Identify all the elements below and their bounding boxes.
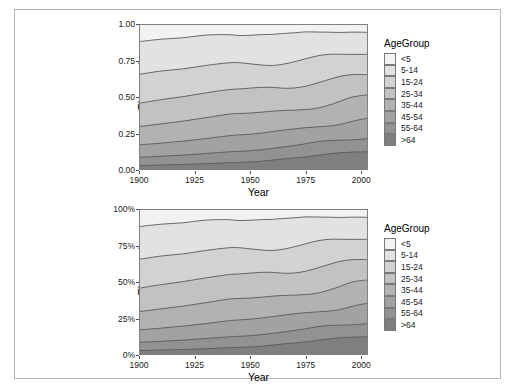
legend-swatch bbox=[384, 250, 396, 262]
y-axis-ticks-bottom: 0%25%50%75%100% bbox=[93, 195, 135, 380]
y-tick-label: 25% bbox=[118, 314, 135, 324]
y-tick-mark bbox=[136, 61, 139, 62]
x-tick-mark bbox=[250, 356, 251, 359]
x-tick-label: 1925 bbox=[185, 360, 204, 370]
legend-label: >64 bbox=[401, 135, 415, 145]
x-tick-label: 1900 bbox=[130, 360, 149, 370]
legend-item: 5-14 bbox=[384, 250, 430, 262]
y-tick-label: 0.00 bbox=[118, 165, 135, 175]
x-tick-label: 1975 bbox=[296, 175, 315, 185]
legend-swatch bbox=[384, 99, 396, 111]
legend-item: 15-24 bbox=[384, 261, 430, 273]
legend-item: 35-44 bbox=[384, 99, 430, 111]
legend-items-bottom: <55-1415-2425-3435-4445-5455-64>64 bbox=[384, 238, 430, 331]
x-tick-label: 1975 bbox=[296, 360, 315, 370]
legend-swatch bbox=[384, 88, 396, 100]
legend-items-top: <55-1415-2425-3435-4445-5455-64>64 bbox=[384, 53, 430, 146]
x-tick-label: 2000 bbox=[352, 175, 371, 185]
figure-frame: Thousands 0.000.250.500.751.00 AgeGroup … bbox=[14, 9, 501, 379]
legend-label: <5 bbox=[401, 54, 411, 64]
legend-swatch bbox=[384, 273, 396, 285]
chart-bottom-percent: Thousands 0%25%50%75%100% AgeGroup <55-1… bbox=[15, 195, 502, 380]
legend-item: 35-44 bbox=[384, 284, 430, 296]
y-tick-label: 0% bbox=[123, 350, 135, 360]
legend-item: 5-14 bbox=[384, 65, 430, 77]
y-axis-ticks-top: 0.000.250.500.751.00 bbox=[93, 10, 135, 195]
x-tick-mark bbox=[195, 171, 196, 174]
plot-panel-bottom bbox=[139, 209, 368, 355]
legend-swatch bbox=[384, 284, 396, 296]
legend-swatch bbox=[384, 308, 396, 320]
legend-label: 5-14 bbox=[401, 250, 418, 260]
legend-top: AgeGroup <55-1415-2425-3435-4445-5455-64… bbox=[384, 38, 430, 146]
legend-swatch bbox=[384, 296, 396, 308]
y-tick-mark bbox=[136, 319, 139, 320]
y-tick-label: 0.50 bbox=[118, 92, 135, 102]
legend-item: 25-34 bbox=[384, 273, 430, 285]
legend-item: 25-34 bbox=[384, 88, 430, 100]
chart-top-absolute: Thousands 0.000.250.500.751.00 AgeGroup … bbox=[15, 10, 502, 195]
legend-swatch bbox=[384, 261, 396, 273]
legend-item: 45-54 bbox=[384, 111, 430, 123]
plot-panel-top bbox=[139, 24, 368, 170]
x-tick-label: 1925 bbox=[185, 175, 204, 185]
x-tick-label: 1900 bbox=[130, 175, 149, 185]
legend-item: >64 bbox=[384, 319, 430, 331]
x-tick-mark bbox=[306, 356, 307, 359]
legend-swatch bbox=[384, 76, 396, 88]
legend-label: 55-64 bbox=[401, 123, 423, 133]
legend-item: 45-54 bbox=[384, 296, 430, 308]
legend-label: 45-54 bbox=[401, 297, 423, 307]
y-tick-label: 0.75 bbox=[118, 56, 135, 66]
y-tick-label: 50% bbox=[118, 277, 135, 287]
y-tick-label: 1.00 bbox=[118, 19, 135, 29]
legend-item: 55-64 bbox=[384, 123, 430, 135]
y-tick-label: 75% bbox=[118, 241, 135, 251]
legend-swatch bbox=[384, 65, 396, 77]
x-axis-title: Year bbox=[15, 371, 502, 383]
legend-bottom: AgeGroup <55-1415-2425-3435-4445-5455-64… bbox=[384, 223, 430, 331]
legend-item: >64 bbox=[384, 134, 430, 146]
y-tick-label: 0.25 bbox=[118, 129, 135, 139]
legend-swatch bbox=[384, 123, 396, 135]
legend-swatch bbox=[384, 238, 396, 250]
legend-swatch bbox=[384, 111, 396, 123]
legend-label: 15-24 bbox=[401, 77, 423, 87]
legend-swatch bbox=[384, 134, 396, 146]
legend-label: <5 bbox=[401, 239, 411, 249]
legend-item: <5 bbox=[384, 53, 430, 65]
x-tick-label: 1950 bbox=[241, 175, 260, 185]
legend-label: >64 bbox=[401, 320, 415, 330]
legend-label: 35-44 bbox=[401, 285, 423, 295]
x-tick-mark bbox=[361, 171, 362, 174]
legend-label: 35-44 bbox=[401, 100, 423, 110]
legend-title-bottom: AgeGroup bbox=[384, 223, 430, 234]
legend-label: 25-34 bbox=[401, 274, 423, 284]
legend-label: 55-64 bbox=[401, 308, 423, 318]
x-tick-mark bbox=[139, 356, 140, 359]
legend-label: 45-54 bbox=[401, 112, 423, 122]
legend-item: 55-64 bbox=[384, 308, 430, 320]
legend-swatch bbox=[384, 53, 396, 65]
legend-item: 15-24 bbox=[384, 76, 430, 88]
legend-label: 15-24 bbox=[401, 262, 423, 272]
x-tick-mark bbox=[250, 171, 251, 174]
legend-label: 25-34 bbox=[401, 89, 423, 99]
x-tick-mark bbox=[361, 356, 362, 359]
x-tick-label: 1950 bbox=[241, 360, 260, 370]
x-tick-mark bbox=[139, 171, 140, 174]
y-tick-mark bbox=[136, 24, 139, 25]
x-tick-mark bbox=[306, 171, 307, 174]
x-tick-mark bbox=[195, 356, 196, 359]
y-tick-mark bbox=[136, 134, 139, 135]
y-tick-mark bbox=[136, 246, 139, 247]
y-tick-mark bbox=[136, 209, 139, 210]
y-tick-label: 100% bbox=[113, 204, 135, 214]
x-tick-label: 2000 bbox=[352, 360, 371, 370]
legend-item: <5 bbox=[384, 238, 430, 250]
legend-title-top: AgeGroup bbox=[384, 38, 430, 49]
y-tick-mark bbox=[136, 97, 139, 98]
legend-swatch bbox=[384, 319, 396, 331]
legend-label: 5-14 bbox=[401, 65, 418, 75]
y-tick-mark bbox=[136, 282, 139, 283]
